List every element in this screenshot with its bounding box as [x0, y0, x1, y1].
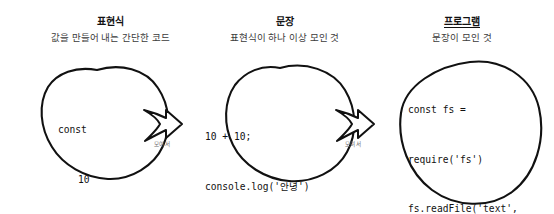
code-line: require('fs') [408, 152, 518, 169]
code-line: fs.readFile('text', [408, 201, 518, 214]
code-expression: const 10 + require '안녕' [44, 88, 90, 214]
code-statement: 10 + 10; console.log('안녕') alert('Hello.… [205, 96, 310, 214]
code-line: console.log('안녕') [205, 179, 310, 196]
code-line: 10 [44, 171, 90, 188]
code-line: const [44, 121, 90, 138]
code-line: 10 + 10; [205, 129, 310, 146]
arrow-label-statement-to-program: 모여서 [345, 140, 361, 148]
code-program: const fs = require('fs') fs.readFile('te… [408, 69, 518, 214]
arrow-label-expression-to-statement: 모여서 [154, 140, 170, 148]
diagram-canvas: 표현식 값을 만들어 내는 간단한 코드 문장 표현식이 하나 이상 모인 것 … [0, 0, 554, 214]
code-line: const fs = [408, 102, 518, 119]
